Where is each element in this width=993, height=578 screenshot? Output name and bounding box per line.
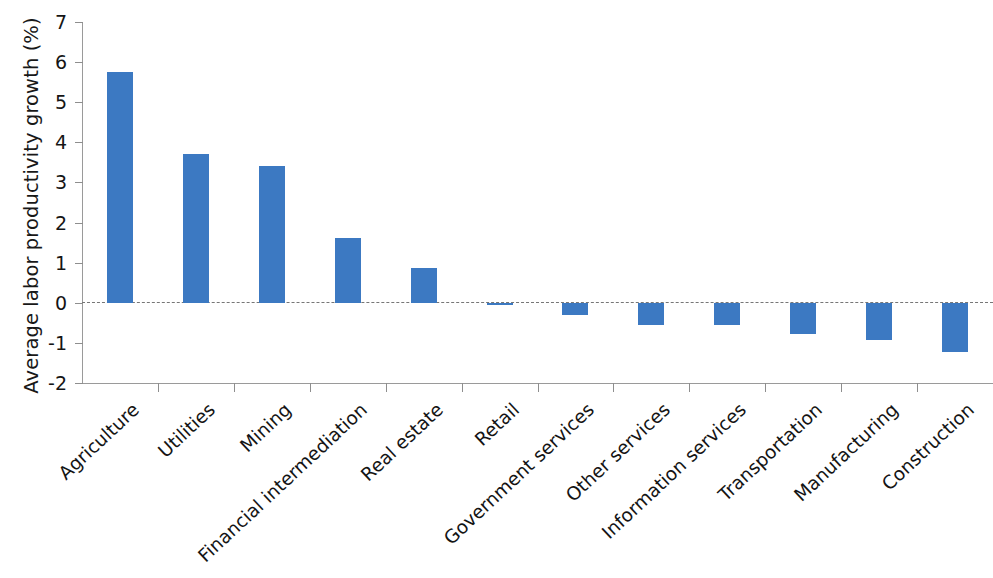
x-axis-labels: AgricultureUtilitiesMiningFinancial inte… (0, 0, 993, 578)
bar-chart: Average labor productivity growth (%) 76… (0, 0, 993, 578)
